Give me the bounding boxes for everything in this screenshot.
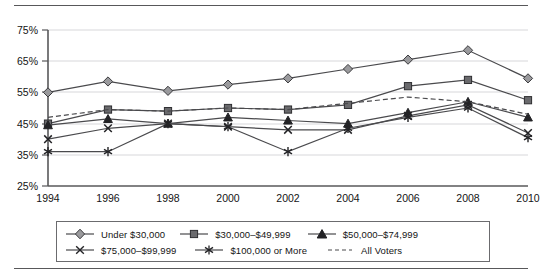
y-tick-label: 65%: [17, 55, 38, 67]
series-0: [43, 46, 532, 97]
square-marker-icon: [524, 97, 531, 104]
legend-label-50000-74999: $50,000–$74,999: [343, 229, 418, 240]
diamond-marker-icon: [43, 88, 52, 97]
top-divider-rule: [14, 5, 528, 6]
series-line: [48, 50, 528, 92]
legend-label-under-30000: Under $30,000: [101, 229, 165, 240]
triangle-marker-icon: [104, 115, 113, 123]
diamond-marker-icon: [523, 74, 532, 83]
bottom-divider-rule: [14, 268, 528, 269]
x-tick-label: 2004: [336, 192, 360, 204]
legend-item-75000-99999: $75,000–$99,999: [65, 244, 176, 256]
diamond-marker-icon: [463, 46, 472, 55]
diamond-marker-icon: [403, 55, 412, 64]
y-tick-label: 75%: [17, 24, 38, 36]
x-tick-label: 2002: [276, 192, 300, 204]
chart-svg: 25%35%45%55%65%75% 199419961998200020022…: [0, 16, 542, 212]
x-tick-label: 2000: [216, 192, 240, 204]
y-tick-label: 25%: [17, 180, 38, 192]
legend-label-all-voters: All Voters: [361, 245, 402, 256]
y-axis-tick-labels: 25%35%45%55%65%75%: [17, 24, 38, 192]
legend-label-100000-or-more: $100,000 or More: [230, 245, 307, 256]
x-tick-label: 2008: [456, 192, 480, 204]
x-axis-tick-labels: 199419961998200020022004200620082010: [36, 192, 540, 204]
legend-label-75000-99999: $75,000–$99,999: [101, 245, 176, 256]
dashed-line-icon: [325, 244, 355, 256]
legend-item-50000-74999: $50,000–$74,999: [307, 228, 418, 240]
y-tick-label: 35%: [17, 149, 38, 161]
gridlines: [48, 30, 528, 155]
y-axis: [42, 30, 48, 186]
diamond-marker-icon: [223, 80, 232, 89]
legend-item-all-voters: All Voters: [325, 244, 402, 256]
asterisk-marker-icon: [194, 244, 224, 256]
y-tick-label: 45%: [17, 118, 38, 130]
diamond-marker-icon: [283, 74, 292, 83]
x-marker-icon: [65, 244, 95, 256]
legend-item-30000-49999: $30,000–$49,999: [179, 228, 290, 240]
x-tick-label: 1996: [96, 192, 120, 204]
legend-item-under-30000: Under $30,000: [65, 228, 165, 240]
x-tick-label: 1998: [156, 192, 180, 204]
square-marker-icon: [344, 101, 351, 108]
legend-row-1: Under $30,000 $30,000–$49,999: [65, 226, 481, 242]
x-tick-label: 2010: [516, 192, 540, 204]
triangle-marker-icon: [307, 228, 337, 240]
x-tick-label: 2006: [396, 192, 420, 204]
y-tick-label: 55%: [17, 86, 38, 98]
diamond-marker-icon: [65, 228, 95, 240]
chart-legend: Under $30,000 $30,000–$49,999: [56, 221, 490, 262]
x-tick-label: 1994: [36, 192, 60, 204]
chart-figure: 25%35%45%55%65%75% 199419961998200020022…: [0, 0, 542, 280]
square-marker-icon: [464, 76, 471, 83]
legend-item-100000-or-more: $100,000 or More: [194, 244, 307, 256]
square-marker-icon: [404, 83, 411, 90]
legend-label-30000-49999: $30,000–$49,999: [215, 229, 290, 240]
data-series-layer: [43, 46, 532, 157]
diamond-marker-icon: [163, 86, 172, 95]
diamond-marker-icon: [103, 77, 112, 86]
line-chart-plot: 25%35%45%55%65%75% 199419961998200020022…: [0, 16, 542, 212]
square-marker-icon: [179, 228, 209, 240]
legend-row-2: $75,000–$99,999 $100,000 or More: [65, 242, 481, 258]
diamond-marker-icon: [343, 64, 352, 73]
